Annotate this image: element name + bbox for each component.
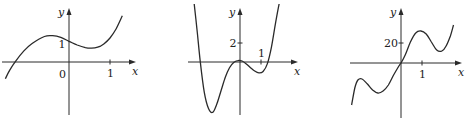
chart-panel-2: xy12 [188,0,301,115]
y-tick-label: 20 [384,37,398,50]
function-curve [194,0,283,113]
chart-panel-3: xy120 [350,6,465,118]
x-axis-arrow-icon [455,61,462,66]
x-axis-label: x [458,66,465,79]
x-tick-label: 1 [258,47,265,60]
x-tick-label: 1 [419,68,426,81]
origin-label: 0 [59,68,66,81]
x-axis-arrow-icon [129,60,136,65]
y-axis-arrow-icon [238,8,243,15]
y-axis-arrow-icon [67,8,72,15]
y-axis-label: y [389,6,397,19]
y-tick-label: 2 [230,37,237,50]
x-tick-label: 1 [107,67,114,80]
function-curve [352,25,454,105]
chart-figure: xy110 xy12 xy120 [0,0,469,130]
x-axis-label: x [294,65,301,78]
y-axis-label: y [228,6,236,19]
chart-panel-1: xy110 [2,6,139,115]
y-axis-label: y [57,6,65,19]
x-axis-arrow-icon [291,60,298,65]
y-axis-arrow-icon [399,8,404,15]
x-axis-label: x [132,65,139,78]
